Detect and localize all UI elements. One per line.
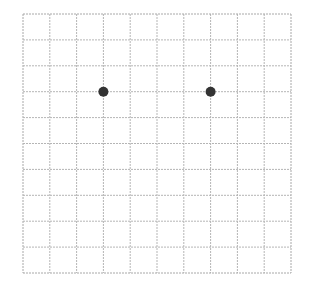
- grid-lines: [23, 14, 291, 273]
- grid-point: [206, 87, 216, 97]
- grid-point: [98, 87, 108, 97]
- dot-grid-diagram: [0, 0, 309, 289]
